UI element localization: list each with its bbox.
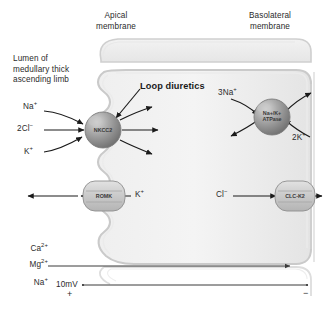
romk-potassium-label: K+ [135,190,144,201]
apical-membrane-line2: membrane [80,22,152,33]
atpase-sodium-charge: + [233,86,237,92]
lumen-label-line2: medullary thick [13,65,69,76]
upper-cell [100,39,311,62]
nkcc2-chloride-charge: − [30,122,34,128]
loop-diuretics-label: Loop diuretics [140,81,205,92]
apical-membrane-line1: Apical [80,11,152,22]
nkcc2-chloride-label: 2Cl− [17,124,33,135]
paracellular-sodium-label: Na+ [8,278,48,289]
lumen-label-line1: Lumen of [13,54,69,65]
lower-cell-edge [100,267,311,296]
paracellular-magnesium-charge: 2+ [41,258,48,264]
basolateral-membrane-line [311,72,314,262]
lumen-label-line3: ascending limb [13,75,69,86]
basolateral-membrane-line1: Basolateral [228,11,312,22]
clck2-chloride-charge: − [224,188,228,194]
nkcc2-sodium-charge: + [34,100,38,106]
clck2-chloride-label: Cl− [216,190,227,201]
nkcc2-sodium-label: Na+ [23,102,37,113]
clck2-name-label: CLC-K2 [275,193,315,199]
polarity-lumen-positive: + [67,290,72,299]
nak-atpase-name-label: Na+/K+ ATPase [250,110,294,122]
paracellular-magnesium-label: Mg2+ [8,260,48,271]
atpase-sodium-label: 3Na+ [218,88,237,99]
atpase-potassium-text: 2K [292,133,302,142]
romk-potassium-charge: + [141,188,145,194]
lumen-label: Lumen of medullary thick ascending limb [13,54,69,86]
paracellular-sodium-text: Na [34,278,45,287]
paracellular-sodium-charge: + [44,276,48,282]
cell-artwork [0,0,327,311]
paracellular-calcium-text: Ca [30,244,41,253]
atpase-sodium-text: 3Na [218,88,233,97]
basolateral-membrane-line2: membrane [228,22,312,33]
nkcc2-potassium-charge: + [30,145,34,151]
clck2-chloride-text: Cl [216,190,224,199]
basolateral-membrane-heading: Basolateral membrane [228,11,312,32]
apical-membrane-heading: Apical membrane [80,11,152,32]
transport-diagram: Apical membrane Basolateral membrane Lum… [0,0,327,311]
nkcc2-name-label: NKCC2 [83,127,123,133]
nkcc2-sodium-text: Na [23,102,34,111]
nkcc2-chloride-text: 2Cl [17,124,30,133]
atpase-potassium-charge: + [302,131,306,137]
nkcc2-potassium-label: K+ [24,147,33,158]
paracellular-calcium-label: Ca2+ [8,244,48,255]
main-cell-body [98,70,311,264]
romk-name-label: ROMK [84,193,124,199]
paracellular-magnesium-text: Mg [30,260,42,269]
nak-atpase-name-line2: ATPase [250,116,294,122]
voltage-line [82,284,308,286]
atpase-potassium-label: 2K+ [292,133,306,144]
paracellular-calcium-charge: 2+ [41,242,48,248]
polarity-blood-negative: − [303,289,308,298]
